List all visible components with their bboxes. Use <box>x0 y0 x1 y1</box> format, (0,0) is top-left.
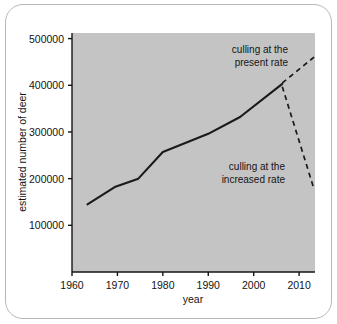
annotation-increased-rate-line2: increased rate <box>222 174 286 185</box>
y-tick-label: 300000 <box>29 126 64 138</box>
y-axis-tick-labels: 100000200000300000400000500000 <box>29 33 64 232</box>
annotation-present-rate-line1: culling at the <box>232 44 289 55</box>
x-tick-label: 1970 <box>106 279 130 291</box>
annotation-present-rate-line2: present rate <box>235 57 289 68</box>
annotation-increased-rate-line1: culling at the <box>229 161 286 172</box>
y-axis-title: estimated number of deer <box>16 92 28 212</box>
chart-figure: 100000200000300000400000500000 196019701… <box>0 0 337 324</box>
y-tick-label: 400000 <box>29 79 64 91</box>
deer-population-line-chart: 100000200000300000400000500000 196019701… <box>0 0 337 324</box>
y-tick-label: 500000 <box>29 33 64 45</box>
y-tick-label: 100000 <box>29 219 64 231</box>
x-tick-label: 1980 <box>151 279 175 291</box>
x-tick-label: 1990 <box>197 279 221 291</box>
x-tick-label: 1960 <box>60 279 84 291</box>
x-tick-label: 2010 <box>287 279 311 291</box>
x-tick-label: 2000 <box>242 279 266 291</box>
y-tick-label: 200000 <box>29 173 64 185</box>
plot-area-background <box>72 33 315 272</box>
x-axis-title: year <box>183 293 204 305</box>
x-axis-tick-labels: 196019701980199020002010 <box>60 279 311 291</box>
